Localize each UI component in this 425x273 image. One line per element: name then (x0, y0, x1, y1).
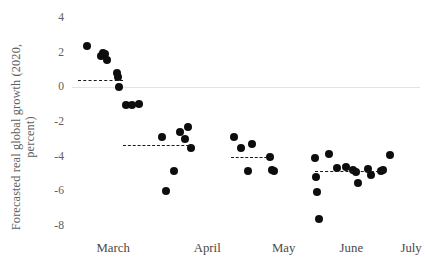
data-point (311, 154, 319, 162)
y-tick-label: -4 (40, 151, 64, 163)
x-tick-label: July (400, 242, 421, 255)
data-point (181, 135, 189, 143)
x-tick-label: May (272, 242, 295, 255)
data-point (313, 188, 321, 196)
mean-line (78, 80, 123, 81)
y-tick-label: 0 (40, 81, 64, 93)
y-tick-label: -6 (40, 185, 64, 197)
data-point (352, 168, 360, 176)
data-point (312, 173, 320, 181)
data-point (325, 150, 333, 158)
data-point (367, 171, 375, 179)
y-axis-title-text: Forecasted real global growth (2020, per… (9, 43, 37, 229)
data-point (83, 42, 91, 50)
data-point (184, 123, 192, 131)
data-point (170, 167, 178, 175)
data-point (230, 133, 238, 141)
y-axis-title-line2: percent) (23, 43, 37, 229)
mean-line (231, 157, 272, 158)
plot-area (72, 10, 420, 232)
x-tick-label: March (96, 242, 129, 255)
data-point (103, 56, 111, 64)
data-point (244, 167, 252, 175)
data-point (115, 83, 123, 91)
forecast-scatter-chart: Forecasted real global growth (2020, per… (0, 0, 425, 273)
data-point (248, 140, 256, 148)
zero-gridline (72, 87, 420, 88)
y-axis-title: Forecasted real global growth (2020, per… (0, 0, 46, 273)
data-point (158, 133, 166, 141)
mean-line (315, 171, 384, 172)
y-tick-label: -2 (40, 116, 64, 128)
mean-line (123, 145, 194, 146)
y-tick-label: -8 (40, 220, 64, 232)
data-point (354, 179, 362, 187)
y-axis-title-line1: Forecasted real global growth (2020, (9, 43, 23, 229)
y-tick-label: 2 (40, 47, 64, 59)
data-point (386, 151, 394, 159)
data-point (135, 100, 143, 108)
data-point (270, 167, 278, 175)
y-tick-label: 4 (40, 12, 64, 24)
x-tick-label: April (194, 242, 221, 255)
data-point (315, 215, 323, 223)
data-point (162, 187, 170, 195)
x-tick-label: June (340, 242, 363, 255)
data-point (237, 144, 245, 152)
